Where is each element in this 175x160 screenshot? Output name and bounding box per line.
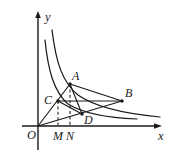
point-marker-C	[56, 99, 59, 102]
point-label-D: D	[83, 113, 93, 127]
point-label-M: M	[52, 129, 64, 143]
figure-canvas: y x O A B C D M N	[0, 0, 175, 160]
point-label-A: A	[71, 69, 80, 83]
inner-hyperbola-curve	[45, 40, 137, 119]
x-axis-label: x	[157, 129, 164, 143]
point-label-N: N	[65, 129, 75, 143]
y-axis-arrowhead	[35, 11, 41, 18]
segment-chord-AD	[70, 84, 82, 114]
point-label-C: C	[44, 93, 53, 107]
x-axis-arrowhead	[154, 123, 162, 129]
axes-group	[22, 11, 162, 150]
curves-group	[45, 30, 160, 119]
point-label-B: B	[125, 86, 133, 100]
geometry-figure: y x O A B C D M N	[0, 0, 175, 160]
point-marker-B	[120, 99, 123, 102]
y-axis-label: y	[43, 10, 51, 24]
segment-chord-AB	[70, 84, 122, 101]
origin-label: O	[27, 128, 36, 142]
